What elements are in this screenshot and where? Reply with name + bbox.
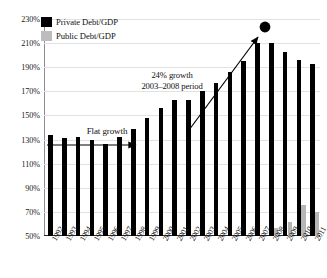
chart-legend: Private Debt/GDP Public Debt/GDP [41,15,145,43]
legend-label-public: Public Debt/GDP [56,31,116,41]
bar-slot [265,19,279,236]
bar-slot [223,19,237,236]
bar-private-debt [269,43,274,236]
y-tick-label: 70% [25,207,40,216]
bar-private-debt [310,64,315,236]
x-axis: 1992199319941995199619971998199920002001… [44,238,320,278]
y-axis: 230%210%190%170%150%130%110%90%70%50% [0,19,40,236]
annotation-growth-label: 24% growth 2003–2008 period [118,70,226,92]
y-tick-label: 50% [25,232,40,241]
bar-slot [196,19,210,236]
annotation-growth-line1: 24% growth [118,70,226,81]
legend-swatch-private-icon [41,17,52,27]
bar-private-debt [103,144,108,236]
bar-slot [251,19,265,236]
bar-private-debt [214,83,219,236]
annotation-flat-growth: Flat growth [48,126,166,137]
bar-private-debt [228,72,233,236]
legend-item-private: Private Debt/GDP [41,15,145,28]
bar-private-debt [90,140,95,236]
bar-private-debt [131,129,136,236]
bar-slot [210,19,224,236]
y-tick-label: 90% [25,183,40,192]
y-tick-label: 110% [22,159,40,168]
bar-private-debt [255,43,260,236]
y-tick-label: 190% [21,63,40,72]
bar-private-debt [241,61,246,236]
bar-private-debt [200,91,205,236]
bar-private-debt [283,52,288,236]
bar-slot [306,19,320,236]
bar-private-debt [48,135,53,236]
bar-private-debt [62,138,67,236]
y-tick-label: 170% [21,87,40,96]
y-tick-label: 230% [21,15,40,24]
debt-to-gdp-bar-chart: 230%210%190%170%150%130%110%90%70%50% 19… [0,0,327,278]
bar-private-debt [172,100,177,236]
bar-slot [292,19,306,236]
bar-private-debt [186,100,191,236]
legend-label-private: Private Debt/GDP [56,17,118,27]
bar-slot [182,19,196,236]
y-tick-label: 210% [21,39,40,48]
y-tick-label: 150% [21,111,40,120]
bar-private-debt [76,137,81,236]
legend-swatch-public-icon [41,31,52,41]
legend-item-public: Public Debt/GDP [41,29,145,42]
annotation-flat-growth-label: Flat growth [48,126,166,136]
annotation-growth-line2: 2003–2008 period [118,81,226,92]
bar-slot [279,19,293,236]
bar-slot [168,19,182,236]
bar-private-debt [117,137,122,236]
bar-slot [237,19,251,236]
y-tick-label: 130% [21,135,40,144]
